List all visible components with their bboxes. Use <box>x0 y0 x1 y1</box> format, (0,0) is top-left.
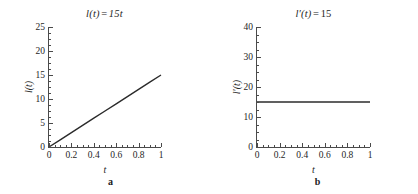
plot-a-xtick-minor <box>77 145 78 147</box>
plot-a-ytick-minor <box>49 33 51 34</box>
plot-a-ytick-minor <box>49 57 51 58</box>
plot-a-ytick-major <box>49 27 53 28</box>
plot-b-title-func: l′(t) <box>295 8 311 19</box>
plot-b-xtick-major <box>302 143 303 147</box>
plot-b-xticklabel: 0.8 <box>341 150 353 160</box>
plot-a-xticklabel: 1 <box>159 150 164 160</box>
plot-a-xtick-major <box>71 143 72 147</box>
plot-a-xticklabel: 0.2 <box>65 150 77 160</box>
plot-a-xtick-minor <box>66 145 67 147</box>
two-panel-figure: l(t)=15t t l(t) 051015202500.20.40.60.81… <box>0 0 418 194</box>
plot-b-xtick-major <box>347 143 348 147</box>
plot-b-xtick-minor <box>314 145 315 147</box>
plot-a-xtick-minor <box>133 145 134 147</box>
plot-a-xtick-minor <box>60 145 61 147</box>
plot-b-xtick-minor <box>268 145 269 147</box>
plot-a-ytick-major <box>49 147 53 148</box>
plot-b-xticklabel: 0 <box>255 150 260 160</box>
plot-a-title: l(t)=15t <box>0 8 209 19</box>
plot-a-yticklabel: 25 <box>36 22 46 32</box>
plot-a-xtick-major <box>94 143 95 147</box>
plot-b-ytick-minor <box>257 125 259 126</box>
plot-b-ytick-minor <box>257 95 259 96</box>
plot-a-xtick-major <box>116 143 117 147</box>
plot-a-ytick-minor <box>49 93 51 94</box>
panel-a-caption: a <box>0 176 215 187</box>
plot-a-ytick-minor <box>49 69 51 70</box>
plot-b-ytick-major <box>257 147 261 148</box>
plot-a-xticklabel: 0 <box>47 150 52 160</box>
panel-a: l(t)=15t t l(t) 051015202500.20.40.60.81… <box>0 0 209 194</box>
plot-a-ytick-minor <box>49 105 51 106</box>
plot-b-ytick-minor <box>257 50 259 51</box>
plot-b-xaxis-label: t <box>312 164 315 175</box>
plot-b-xtick-minor <box>364 145 365 147</box>
plot-a-ytick-minor <box>49 87 51 88</box>
plot-b-xtick-minor <box>274 145 275 147</box>
plot-b-xtick-minor <box>263 145 264 147</box>
plot-b-xtick-major <box>257 143 258 147</box>
plot-a-xtick-minor <box>155 145 156 147</box>
plot-a-ytick-major <box>49 99 53 100</box>
plot-b-curve <box>257 27 370 147</box>
plot-b-xtick-minor <box>308 145 309 147</box>
plot-a-ytick-minor <box>49 129 51 130</box>
plot-a-ytick-major <box>49 51 53 52</box>
plot-a-axes: t l(t) 051015202500.20.40.60.81 <box>48 27 161 148</box>
plot-b-ytick-minor <box>257 35 259 36</box>
plot-a-title-expr: 15t <box>109 8 123 19</box>
plot-b-xtick-major <box>325 143 326 147</box>
plot-a-xtick-minor <box>88 145 89 147</box>
plot-a-xtick-minor <box>55 145 56 147</box>
plot-a-xticklabel: 0.6 <box>110 150 122 160</box>
plot-b-ytick-minor <box>257 42 259 43</box>
plot-a-title-operator: = <box>100 8 109 19</box>
plot-a-yticklabel: 5 <box>40 118 45 128</box>
plot-b-xtick-minor <box>342 145 343 147</box>
plot-a-xtick-minor <box>99 145 100 147</box>
plot-b-xtick-minor <box>297 145 298 147</box>
plot-b-xtick-minor <box>353 145 354 147</box>
plot-b-xtick-minor <box>330 145 331 147</box>
plot-b-title-expr: 15 <box>321 8 332 19</box>
plot-b-xticklabel: 1 <box>368 150 373 160</box>
plot-a-curve <box>49 27 161 147</box>
plot-a-xtick-minor <box>150 145 151 147</box>
plot-b-xticklabel: 0.6 <box>319 150 331 160</box>
plot-a-xtick-major <box>139 143 140 147</box>
plot-b-xtick-major <box>370 143 371 147</box>
panel-b: l′(t)=15 t l′(t) 01020304000.20.40.60.81… <box>209 0 418 194</box>
plot-b-yticklabel: 10 <box>244 112 254 122</box>
plot-b-ytick-minor <box>257 140 259 141</box>
plot-a-title-func: l(t) <box>86 8 100 19</box>
plot-b-title-operator: = <box>312 8 321 19</box>
plot-b-ytick-minor <box>257 102 259 103</box>
plot-a-ytick-minor <box>49 117 51 118</box>
plot-b-xticklabel: 0.4 <box>296 150 308 160</box>
plot-a-xticklabel: 0.4 <box>88 150 100 160</box>
plot-a-xtick-major <box>161 143 162 147</box>
plot-a-ytick-major <box>49 75 53 76</box>
plot-a-xtick-minor <box>122 145 123 147</box>
plot-a-xaxis-label: t <box>104 164 107 175</box>
plot-a-yaxis-label: l(t) <box>23 81 34 93</box>
plot-a-ytick-minor <box>49 141 51 142</box>
plot-b-ytick-minor <box>257 80 259 81</box>
plot-a-ytick-minor <box>49 63 51 64</box>
plot-a-ytick-minor <box>49 39 51 40</box>
panel-b-caption: b <box>209 176 418 187</box>
plot-b-axes: t l′(t) 01020304000.20.40.60.81 <box>256 27 370 148</box>
plot-a-xticklabel: 0.8 <box>133 150 145 160</box>
plot-b-ytick-major <box>257 87 261 88</box>
plot-b-ytick-minor <box>257 65 259 66</box>
plot-a-ytick-minor <box>49 135 51 136</box>
plot-b-yaxis-label: l′(t) <box>231 80 242 94</box>
plot-b-yticklabel: 40 <box>244 22 254 32</box>
plot-a-series-line <box>49 75 161 147</box>
plot-a-yticklabel: 15 <box>36 70 46 80</box>
plot-a-xtick-minor <box>111 145 112 147</box>
plot-a-ytick-minor <box>49 111 51 112</box>
plot-b-xticklabel: 0.2 <box>274 150 286 160</box>
plot-a-ytick-minor <box>49 81 51 82</box>
plot-b-ytick-minor <box>257 110 259 111</box>
